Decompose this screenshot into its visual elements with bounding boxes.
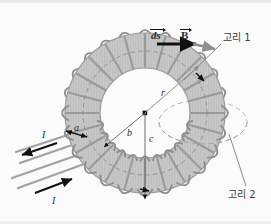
radius-r-label: r <box>161 88 165 98</box>
current-out-label: I <box>42 130 45 140</box>
loop2-label: 고리 2 <box>228 190 256 200</box>
b-field-label: B <box>181 30 188 41</box>
coil-width-label: a <box>74 123 79 133</box>
ds-vector-overbar <box>150 29 165 30</box>
ds-vector-label: ds <box>151 30 161 41</box>
radius-c-label: c <box>149 134 153 144</box>
radius-b-label: b <box>127 128 132 138</box>
b-field-overbar <box>180 29 191 30</box>
toroid-figure: ds B 고리 1 고리 2 b c r a I I <box>0 0 271 224</box>
loop1-label: 고리 1 <box>223 33 251 43</box>
current-in-label: I <box>52 196 55 206</box>
